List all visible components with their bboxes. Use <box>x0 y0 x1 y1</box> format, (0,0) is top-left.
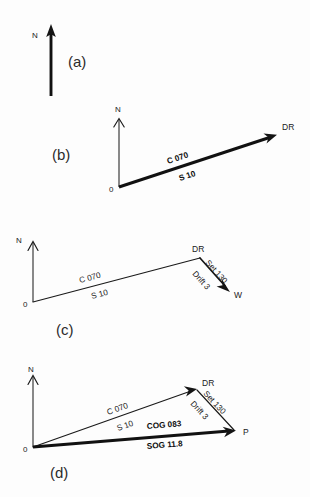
drift-label-c: Drift 3 <box>191 269 213 292</box>
course-vector-d <box>33 391 191 447</box>
dr-point-label-b: DR <box>282 122 294 132</box>
sog-label-d: SOG 11.8 <box>146 439 183 451</box>
origin-label-c: 0 <box>23 300 28 309</box>
p-point-label-d: P <box>243 427 249 437</box>
panel-label-c: (c) <box>56 321 74 338</box>
north-label-d: N <box>28 365 34 374</box>
w-point-label-c: W <box>234 290 242 300</box>
course-vector-b <box>119 137 271 187</box>
dr-point-label-d: DR <box>202 378 214 388</box>
north-label-a: N <box>32 31 38 40</box>
panel-b: N 0 DR C 070 S 10 (b) <box>52 105 294 194</box>
speed-label-b: S 10 <box>178 169 197 183</box>
panel-a: N (a) <box>32 24 86 96</box>
speed-label-c: S 10 <box>90 288 109 301</box>
origin-label-b: 0 <box>109 185 114 194</box>
panel-c: N 0 DR C 070 S 10 W Set 130 Drift 3 (c) <box>16 236 242 338</box>
dr-point-label-c: DR <box>192 244 204 254</box>
cog-vector-d <box>33 431 229 447</box>
cog-label-d: COG 083 <box>146 419 182 431</box>
speed-label-d: S 10 <box>116 419 135 433</box>
panel-label-a: (a) <box>68 53 86 70</box>
drift-label-d: Drift 3 <box>189 399 211 421</box>
north-label-b: N <box>115 105 121 114</box>
panel-d: N 0 DR C 070 S 10 Set 130 Drift 3 P COG … <box>23 365 249 481</box>
figure-canvas: N (a) N 0 DR C 070 S 10 (b) N 0 <box>0 0 310 497</box>
panel-label-d: (d) <box>50 464 68 481</box>
panel-label-b: (b) <box>52 146 70 163</box>
course-vector-head-d <box>184 386 197 396</box>
origin-label-d: 0 <box>23 445 28 454</box>
north-label-c: N <box>16 236 22 245</box>
course-vector-c <box>33 258 200 302</box>
course-label-c: C 070 <box>78 271 102 285</box>
navigation-vector-diagram: N (a) N 0 DR C 070 S 10 (b) N 0 <box>0 0 310 497</box>
